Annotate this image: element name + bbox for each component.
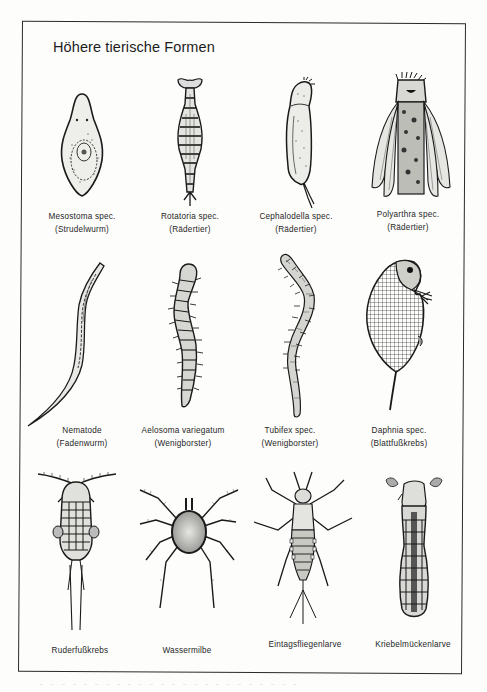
page-title: Höhere tierische Formen — [53, 39, 215, 55]
rotifer-polyarthra-illustration — [368, 72, 454, 206]
blackfly-larva-illustration — [382, 474, 446, 626]
tubifex-worm-illustration — [272, 250, 332, 420]
species-name: Cephalodella spec. — [231, 210, 361, 223]
daphnia-illustration — [362, 254, 444, 416]
common-name: (Rädertier) — [343, 221, 473, 234]
caption-polyarthra: Polyarthra spec. (Rädertier) — [343, 208, 473, 234]
caption-water-mite: Wassermilbe — [122, 644, 252, 657]
species-name: Kriebelmückenlarve — [348, 638, 478, 651]
copepod-illustration — [34, 470, 118, 635]
caption-daphnia: Daphnia spec. (Blattfußkrebs) — [334, 424, 464, 450]
flatworm-illustration — [52, 90, 112, 200]
water-mite-illustration — [136, 480, 242, 615]
common-name: (Blattfußkrebs) — [334, 437, 464, 450]
scan-bleed-through — [40, 684, 300, 685]
caption-blackfly-larva: Kriebelmückenlarve — [348, 638, 478, 651]
rotifer-cephalodella-illustration — [276, 76, 326, 211]
nematode-illustration — [26, 260, 106, 428]
caption-cephalodella: Cephalodella spec. (Rädertier) — [231, 210, 361, 236]
mayfly-larva-illustration — [250, 468, 356, 632]
common-name: (Rädertier) — [231, 223, 361, 236]
aelosoma-worm-illustration — [160, 260, 204, 410]
scanned-page: Höhere tierische Formen Mesostoma spec. … — [0, 0, 487, 692]
rotifer-illustration — [168, 74, 212, 210]
species-name: Wassermilbe — [122, 644, 252, 657]
species-name: Daphnia spec. — [334, 424, 464, 437]
species-name: Polyarthra spec. — [343, 208, 473, 221]
